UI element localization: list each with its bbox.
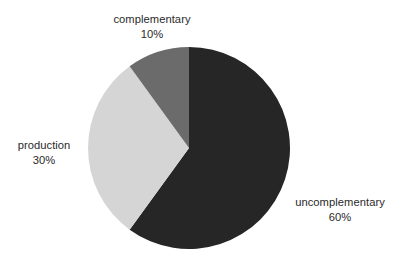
pie-label-complementary: complementary 10% — [100, 12, 204, 41]
pie-label-uncomplementary: uncomplementary 60% — [281, 195, 399, 224]
pie-label-complementary-name: complementary — [100, 12, 204, 27]
pie-label-production-name: production — [8, 138, 80, 153]
pie-label-production: production 30% — [8, 138, 80, 167]
pie-label-uncomplementary-value: 60% — [281, 210, 399, 225]
pie-label-production-value: 30% — [8, 153, 80, 168]
pie-label-complementary-value: 10% — [100, 27, 204, 42]
pie-chart-figure: complementary 10% production 30% uncompl… — [0, 0, 404, 257]
pie-label-uncomplementary-name: uncomplementary — [281, 195, 399, 210]
